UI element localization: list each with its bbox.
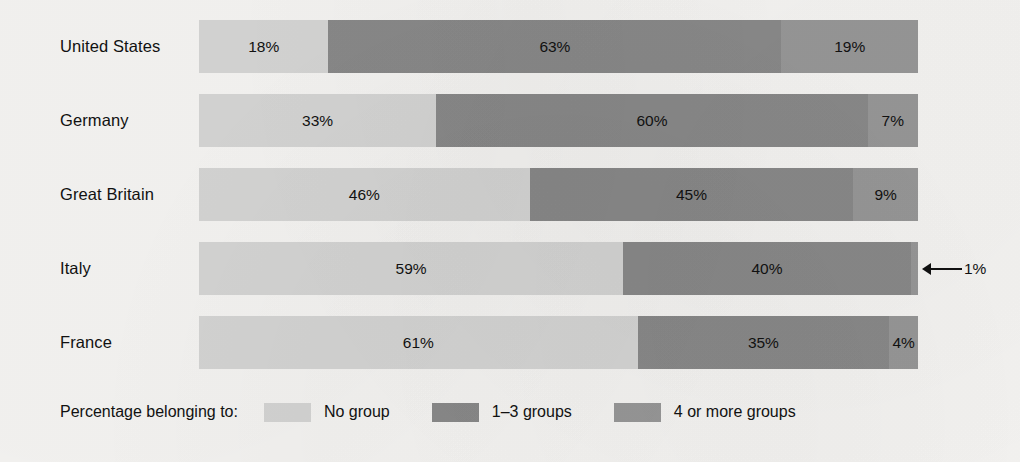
bar-segment: 60% — [436, 94, 867, 147]
segment-value-label: 33% — [302, 112, 333, 130]
legend-title: Percentage belonging to: — [60, 403, 238, 421]
bar-segment — [911, 242, 918, 295]
segment-value-label: 59% — [396, 260, 427, 278]
segment-value-label: 18% — [248, 38, 279, 56]
bar-segment: 35% — [638, 316, 890, 369]
segment-value-label: 35% — [748, 334, 779, 352]
bar-segment: 45% — [530, 168, 854, 221]
legend-item[interactable]: 1–3 groups — [432, 403, 572, 422]
row-label-germany: Germany — [60, 94, 129, 147]
bar-row: Germany33%60%7% — [0, 94, 1020, 147]
segment-value-label: 63% — [539, 38, 570, 56]
segment-value-label: 40% — [751, 260, 782, 278]
chart-legend: Percentage belonging to: No group1–3 gro… — [60, 398, 838, 426]
segment-value-label: 7% — [882, 112, 904, 130]
stacked-bar: 46%45%9% — [199, 168, 918, 221]
stacked-bar: 61%35%4% — [199, 316, 918, 369]
stacked-bar: 59%40% — [199, 242, 918, 295]
legend-item[interactable]: 4 or more groups — [614, 403, 796, 422]
bar-segment: 9% — [853, 168, 918, 221]
row-label-france: France — [60, 316, 112, 369]
bar-segment: 46% — [199, 168, 530, 221]
legend-label: 4 or more groups — [674, 403, 796, 421]
bar-segment: 18% — [199, 20, 328, 73]
bar-row: France61%35%4% — [0, 316, 1020, 369]
bar-row: Italy59%40%1% — [0, 242, 1020, 295]
segment-value-label: 61% — [403, 334, 434, 352]
legend-swatch — [264, 403, 311, 422]
segment-value-label: 45% — [676, 186, 707, 204]
row-label-united-states: United States — [60, 20, 160, 73]
segment-value-label: 4% — [892, 334, 914, 352]
bar-segment: 4% — [889, 316, 918, 369]
stacked-bar: 33%60%7% — [199, 94, 918, 147]
bar-segment: 33% — [199, 94, 436, 147]
row-label-italy: Italy — [60, 242, 91, 295]
bar-row: Great Britain46%45%9% — [0, 168, 1020, 221]
bar-segment: 61% — [199, 316, 638, 369]
segment-value-label: 19% — [834, 38, 865, 56]
legend-swatch — [432, 403, 479, 422]
legend-label: No group — [324, 403, 390, 421]
callout-annotation: 1% — [922, 242, 986, 295]
stacked-bar-chart: United States18%63%19%Germany33%60%7%Gre… — [0, 0, 1020, 462]
segment-value-label: 60% — [636, 112, 667, 130]
bar-segment: 59% — [199, 242, 623, 295]
legend-label: 1–3 groups — [492, 403, 572, 421]
bar-segment: 63% — [328, 20, 781, 73]
callout-value-label: 1% — [964, 260, 986, 278]
bar-segment: 7% — [868, 94, 918, 147]
bar-segment: 40% — [623, 242, 911, 295]
segment-value-label: 46% — [349, 186, 380, 204]
segment-value-label: 9% — [874, 186, 896, 204]
legend-item[interactable]: No group — [264, 403, 390, 422]
stacked-bar: 18%63%19% — [199, 20, 918, 73]
bar-row: United States18%63%19% — [0, 20, 1020, 73]
legend-swatch — [614, 403, 661, 422]
bar-segment: 19% — [781, 20, 918, 73]
left-arrow-icon — [922, 263, 962, 275]
row-label-great-britain: Great Britain — [60, 168, 154, 221]
